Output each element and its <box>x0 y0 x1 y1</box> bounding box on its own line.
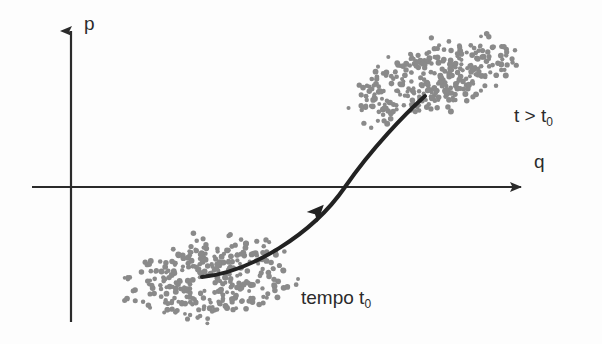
cloud-point <box>260 286 264 290</box>
cloud-point <box>180 268 184 272</box>
cloud-point <box>381 112 386 117</box>
cloud-point <box>473 50 478 55</box>
cloud-point <box>198 314 203 319</box>
cloud-point <box>359 93 363 97</box>
cloud-point <box>275 294 281 300</box>
cloud-point <box>191 230 197 236</box>
cloud-point <box>462 91 468 97</box>
cloud-point <box>372 92 376 96</box>
cloud-point <box>216 299 221 304</box>
cloud-point <box>271 267 276 272</box>
cloud-point <box>272 288 278 294</box>
cloud-point <box>457 77 462 82</box>
cloud-point <box>226 248 231 253</box>
cloud-point <box>376 109 381 114</box>
cloud-point <box>147 291 152 296</box>
cloud-point <box>373 69 379 75</box>
cloud-point <box>254 239 259 244</box>
cloud-point <box>389 81 395 87</box>
cloud-point <box>265 291 270 296</box>
cloud-point <box>239 299 244 304</box>
cloud-point <box>458 44 462 48</box>
cloud-point <box>235 258 239 262</box>
cloud-point <box>152 277 157 282</box>
phase-space-diagram: p q t > t0 tempo t0 <box>0 0 602 344</box>
cloud-point <box>493 73 499 79</box>
cloud-point <box>369 77 374 82</box>
cloud-point <box>434 88 440 94</box>
upper-cloud-label-subscript: 0 <box>546 115 553 129</box>
cloud-point <box>211 305 215 309</box>
cloud-point <box>429 35 434 40</box>
cloud-point <box>248 296 253 301</box>
cloud-point <box>479 74 483 78</box>
cloud-point <box>210 309 215 314</box>
cloud-point <box>447 61 453 67</box>
cloud-point <box>419 82 425 88</box>
cloud-point <box>192 264 196 268</box>
cloud-point <box>380 97 384 101</box>
cloud-point <box>166 275 171 280</box>
cloud-point <box>424 59 428 63</box>
cloud-point <box>501 44 506 49</box>
cloud-point <box>271 277 276 282</box>
cloud-point <box>225 290 229 294</box>
cloud-point <box>255 279 260 284</box>
cloud-point <box>253 252 257 256</box>
cloud-point <box>146 303 152 309</box>
cloud-point <box>229 285 234 290</box>
cloud-point <box>222 252 226 256</box>
cloud-point <box>386 101 390 105</box>
cloud-point <box>367 89 372 94</box>
cloud-point <box>175 252 181 258</box>
cloud-point <box>409 88 413 92</box>
cloud-point <box>221 293 225 297</box>
cloud-point <box>174 286 179 291</box>
cloud-point <box>280 268 286 274</box>
cloud-point <box>149 269 154 274</box>
cloud-point <box>201 295 206 300</box>
cloud-point <box>479 34 483 38</box>
cloud-point <box>178 287 183 292</box>
cloud-point <box>459 58 463 62</box>
cloud-point <box>389 74 394 79</box>
cloud-point <box>469 63 473 67</box>
cloud-point <box>432 71 437 76</box>
cloud-point <box>231 291 235 295</box>
cloud-point <box>153 269 157 273</box>
cloud-point <box>428 106 433 111</box>
momentum-axis-label: p <box>84 14 95 33</box>
cloud-point <box>502 68 506 72</box>
cloud-point <box>386 55 390 59</box>
cloud-point <box>194 248 199 253</box>
cloud-point <box>427 50 432 55</box>
cloud-point <box>175 281 180 286</box>
cloud-point <box>266 274 272 280</box>
cloud-point <box>123 276 127 280</box>
cloud-point <box>414 63 419 68</box>
cloud-point <box>217 288 222 293</box>
cloud-point <box>394 89 398 93</box>
cloud-point <box>365 98 369 102</box>
cloud-point <box>393 70 398 75</box>
cloud-point <box>467 83 472 88</box>
cloud-point <box>208 298 212 302</box>
cloud-point <box>229 296 235 302</box>
cloud-point <box>361 121 366 126</box>
cloud-point <box>223 281 227 285</box>
cloud-point <box>490 63 495 68</box>
cloud-point <box>480 48 485 53</box>
cloud-point <box>444 87 450 93</box>
cloud-point <box>437 43 441 47</box>
cloud-point <box>202 245 206 249</box>
cloud-point <box>376 84 381 89</box>
cloud-point <box>294 282 299 287</box>
cloud-point <box>205 321 209 325</box>
cloud-point <box>487 57 491 61</box>
cloud-point <box>229 259 235 265</box>
cloud-point <box>410 97 416 103</box>
cloud-point <box>458 66 463 71</box>
cloud-point <box>402 72 408 78</box>
cloud-point <box>261 244 266 249</box>
cloud-point <box>185 316 190 321</box>
